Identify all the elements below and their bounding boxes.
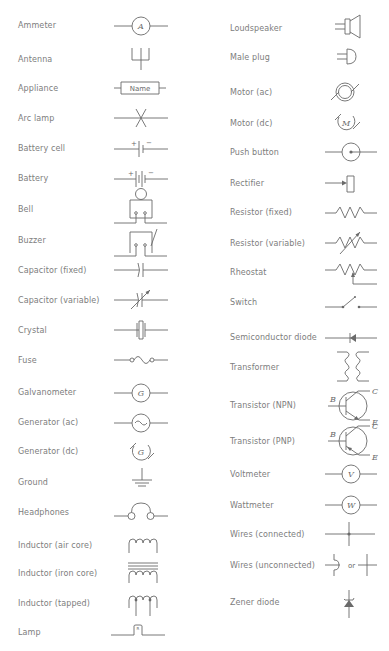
generator-ac-symbol-icon xyxy=(114,411,168,435)
transformer-symbol-icon xyxy=(335,350,371,384)
motor-dc-symbol-icon: M xyxy=(330,111,364,135)
label-wires-connected: Wires (connected) xyxy=(230,530,305,539)
transistor-pnp-symbol-icon: B C E xyxy=(322,421,384,461)
label-transformer: Transformer xyxy=(230,363,279,372)
label-wires-unconnected: Wires (unconnected) xyxy=(230,561,315,570)
loudspeaker-symbol-icon xyxy=(335,14,365,40)
semiconductor-diode-symbol-icon xyxy=(325,330,377,346)
wires-unconnected-symbol-icon: or xyxy=(325,553,379,577)
label-motor-dc: Motor (dc) xyxy=(230,119,272,128)
label-resistor-fixed: Resistor (fixed) xyxy=(230,208,292,217)
svg-text:R: R xyxy=(137,626,140,631)
label-transistor-pnp: Transistor (PNP) xyxy=(230,437,295,446)
label-male-plug: Male plug xyxy=(230,53,270,62)
label-inductor-air-core: Inductor (air core) xyxy=(18,541,92,550)
label-headphones: Headphones xyxy=(18,508,69,517)
label-transistor-npn: Transistor (NPN) xyxy=(230,401,296,410)
inductor-air-core-symbol-icon xyxy=(127,537,159,555)
label-battery: Battery xyxy=(18,174,48,183)
capacitor-fixed-symbol-icon xyxy=(114,260,168,280)
svg-text:C: C xyxy=(372,387,378,396)
label-antenna: Antenna xyxy=(18,55,52,64)
inductor-iron-core-symbol-icon xyxy=(127,561,159,585)
label-voltmeter: Voltmeter xyxy=(230,470,270,479)
label-generator-ac: Generator (ac) xyxy=(18,418,78,427)
label-push-button: Push button xyxy=(230,148,279,157)
svg-text:B: B xyxy=(329,430,336,439)
battery-cell-symbol-icon: + − xyxy=(114,138,168,158)
lamp-symbol-icon: R xyxy=(111,623,165,637)
antenna-symbol-icon xyxy=(130,47,152,71)
svg-text:Name: Name xyxy=(130,85,151,93)
svg-text:−: − xyxy=(146,139,152,147)
svg-text:E: E xyxy=(371,453,378,462)
inductor-tapped-symbol-icon xyxy=(127,594,159,618)
label-lamp: Lamp xyxy=(18,628,41,637)
label-resistor-variable: Resistor (variable) xyxy=(230,239,305,248)
svg-text:−: − xyxy=(148,169,154,177)
label-crystal: Crystal xyxy=(18,326,47,335)
label-ground: Ground xyxy=(18,478,48,487)
label-capacitor-fixed: Capacitor (fixed) xyxy=(18,266,86,275)
galvanometer-symbol-icon: G xyxy=(114,381,168,405)
label-motor-ac: Motor (ac) xyxy=(230,88,272,97)
label-buzzer: Buzzer xyxy=(18,236,46,245)
resistor-fixed-symbol-icon xyxy=(325,204,377,220)
label-switch: Switch xyxy=(230,298,257,307)
switch-symbol-icon xyxy=(325,294,377,312)
svg-text:A: A xyxy=(137,22,144,31)
label-ammeter: Ammeter xyxy=(18,21,56,30)
svg-text:or: or xyxy=(348,562,355,570)
label-inductor-tapped: Inductor (tapped) xyxy=(18,599,90,608)
svg-text:G: G xyxy=(138,448,145,457)
arc-lamp-symbol-icon xyxy=(114,107,168,129)
push-button-symbol-icon xyxy=(325,141,377,163)
buzzer-symbol-icon xyxy=(114,228,168,260)
crystal-symbol-icon xyxy=(114,319,168,341)
svg-text:+: + xyxy=(131,140,137,148)
wattmeter-symbol-icon: W xyxy=(325,494,377,516)
label-appliance: Appliance xyxy=(18,84,58,93)
motor-ac-symbol-icon xyxy=(328,79,362,105)
svg-text:B: B xyxy=(329,395,336,404)
generator-dc-symbol-icon: G xyxy=(126,440,158,464)
rheostat-symbol-icon xyxy=(325,262,377,288)
label-wattmeter: Wattmeter xyxy=(230,501,274,510)
label-rectifier: Rectifier xyxy=(230,179,264,188)
headphones-symbol-icon xyxy=(114,500,168,522)
resistor-variable-symbol-icon xyxy=(325,230,377,256)
capacitor-variable-symbol-icon xyxy=(114,287,168,311)
label-semiconductor-diode: Semiconductor diode xyxy=(230,333,317,342)
svg-text:G: G xyxy=(138,389,145,398)
male-plug-symbol-icon xyxy=(335,46,361,68)
label-loudspeaker: Loudspeaker xyxy=(230,24,282,33)
label-battery-cell: Battery cell xyxy=(18,144,65,153)
rectifier-symbol-icon xyxy=(325,173,359,193)
label-bell: Bell xyxy=(18,205,33,214)
label-zener-diode: Zener diode xyxy=(230,598,280,607)
svg-text:V: V xyxy=(348,470,355,479)
label-galvanometer: Galvanometer xyxy=(18,388,76,397)
ammeter-symbol-icon: A xyxy=(114,14,168,38)
label-capacitor-variable: Capacitor (variable) xyxy=(18,296,99,305)
voltmeter-symbol-icon: V xyxy=(325,463,377,485)
zener-diode-symbol-icon xyxy=(337,590,361,620)
ground-symbol-icon xyxy=(130,468,154,490)
bell-symbol-icon xyxy=(114,188,168,228)
appliance-symbol-icon: Name xyxy=(114,80,168,96)
svg-text:W: W xyxy=(347,501,356,510)
wires-connected-symbol-icon xyxy=(325,522,377,546)
label-arc-lamp: Arc lamp xyxy=(18,114,54,123)
svg-text:+: + xyxy=(128,170,134,178)
svg-text:M: M xyxy=(341,119,351,128)
label-fuse: Fuse xyxy=(18,356,37,365)
fuse-symbol-icon xyxy=(114,352,168,368)
label-inductor-iron-core: Inductor (iron core) xyxy=(18,569,97,578)
transistor-npn-symbol-icon: B C E xyxy=(322,386,384,426)
label-rheostat: Rheostat xyxy=(230,268,267,277)
svg-text:C: C xyxy=(372,422,378,431)
battery-symbol-icon: + − xyxy=(114,168,168,188)
label-generator-dc: Generator (dc) xyxy=(18,447,78,456)
